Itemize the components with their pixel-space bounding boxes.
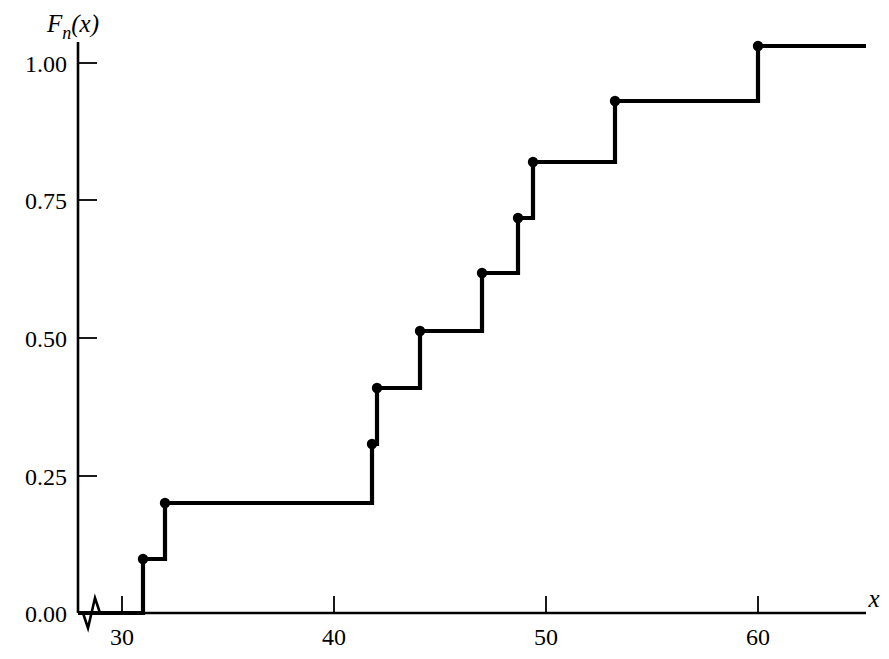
step-point-marker	[372, 383, 382, 393]
y-axis-title-F: F	[46, 10, 63, 37]
y-tick-label-0.00: 0.00	[25, 601, 67, 627]
x-tick-label-40: 40	[322, 624, 346, 650]
step-point-marker	[513, 213, 523, 223]
step-point-marker	[367, 439, 377, 449]
x-tick-label-30: 30	[110, 624, 134, 650]
step-point-marker	[138, 554, 148, 564]
x-tick-label-50: 50	[534, 624, 558, 650]
y-tick-label-0.75: 0.75	[25, 188, 67, 214]
step-point-marker	[610, 96, 620, 106]
y-axis-title: Fn(x)	[46, 10, 99, 43]
y-tick-label-1.00: 1.00	[25, 51, 67, 77]
step-point-marker	[528, 157, 538, 167]
x-axis-title: x	[867, 585, 879, 612]
ecdf-step-line	[78, 46, 866, 613]
step-plot-svg: 1.00 0.75 0.50 0.25 0.00 30 40 50 60 Fn(…	[0, 0, 889, 659]
y-tick-label-0.50: 0.50	[25, 326, 67, 352]
y-tick-label-0.25: 0.25	[25, 464, 67, 490]
y-axis-title-paren: (x)	[71, 10, 99, 38]
step-point-marker	[477, 268, 487, 278]
step-point-marker	[415, 326, 425, 336]
ecdf-figure: 1.00 0.75 0.50 0.25 0.00 30 40 50 60 Fn(…	[0, 0, 889, 659]
step-point-marker	[160, 498, 170, 508]
step-point-marker	[753, 41, 763, 51]
y-axis-title-subscript-n: n	[62, 23, 71, 43]
x-tick-label-60: 60	[746, 624, 770, 650]
